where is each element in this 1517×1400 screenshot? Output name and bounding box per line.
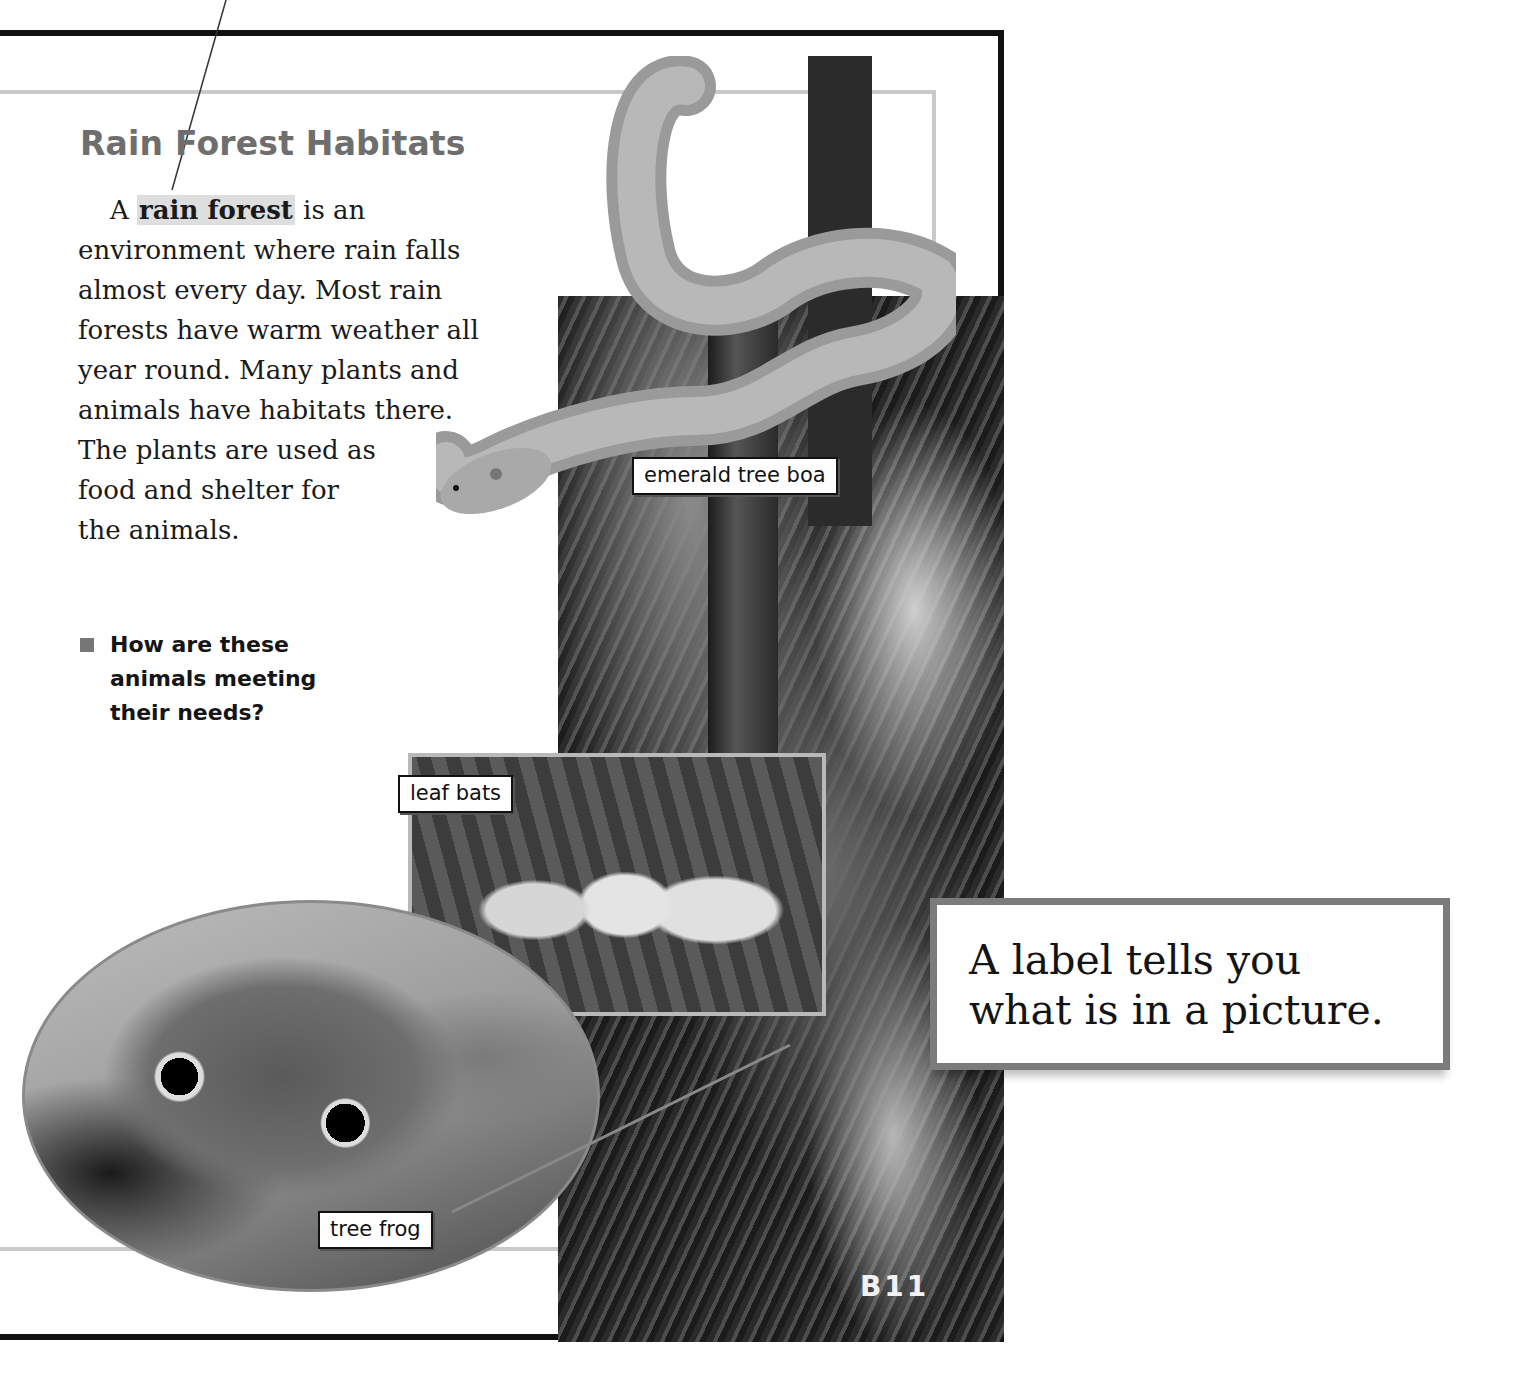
paragraph-first-line: A rain forest is an	[78, 190, 538, 230]
paragraph-line: forests have warm weather all	[78, 310, 538, 350]
tree-frog-photo	[22, 900, 600, 1292]
callout-box: A label tells you what is in a picture.	[930, 898, 1450, 1070]
question-line: their needs?	[80, 696, 316, 730]
question-line: How are these	[80, 628, 316, 662]
paragraph-lead: A	[110, 195, 129, 225]
paragraph-line: food and shelter for	[78, 470, 538, 510]
page-border-right	[998, 30, 1004, 298]
label-tree-frog: tree frog	[318, 1211, 433, 1249]
callout-line: what is in a picture.	[969, 985, 1384, 1035]
page-border-top	[0, 30, 1004, 36]
paragraph-line: almost every day. Most rain	[78, 270, 538, 310]
label-leaf-bats: leaf bats	[398, 775, 513, 813]
paragraph-line: year round. Many plants and	[78, 350, 538, 390]
body-paragraph: A rain forest is an environment where ra…	[78, 190, 538, 550]
callout-line: A label tells you	[969, 935, 1384, 985]
square-bullet-icon	[80, 638, 94, 652]
paragraph-line: environment where rain falls	[78, 230, 538, 270]
review-question: How are these animals meeting their need…	[80, 628, 316, 730]
section-heading: Rain Forest Habitats	[80, 124, 466, 163]
question-line: animals meeting	[80, 662, 316, 696]
callout-text: A label tells you what is in a picture.	[969, 935, 1384, 1035]
label-emerald-tree-boa: emerald tree boa	[632, 457, 838, 495]
paragraph-line: The plants are used as	[78, 430, 538, 470]
vocabulary-term: rain forest	[137, 195, 295, 225]
paragraph-line: the animals.	[78, 510, 538, 550]
paragraph-line: animals have habitats there.	[78, 390, 538, 430]
paragraph-after-term: is an	[303, 195, 365, 225]
page-number: B11	[860, 1270, 929, 1303]
